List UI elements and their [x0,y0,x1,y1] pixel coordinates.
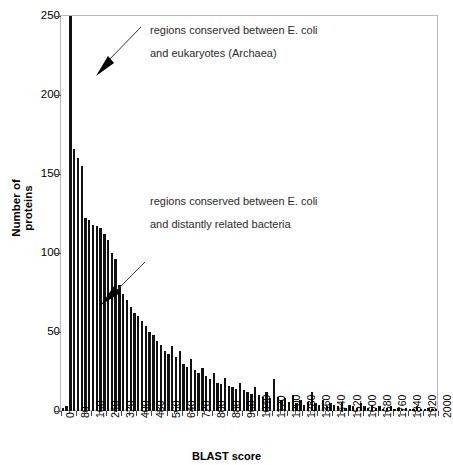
chart-canvas: 050100150200250 Number of proteins 08016… [0,0,453,465]
arrow-bacteria-icon [101,262,145,305]
annotation-bacteria-line2: and distantly related bacteria [150,219,318,230]
annotation-bacteria-line1: regions conserved between E. coli [150,196,318,207]
arrow-archaea-icon [96,27,141,76]
annotation-bacteria: regions conserved between E. coli and di… [150,196,318,230]
annotation-arrows [0,0,453,465]
